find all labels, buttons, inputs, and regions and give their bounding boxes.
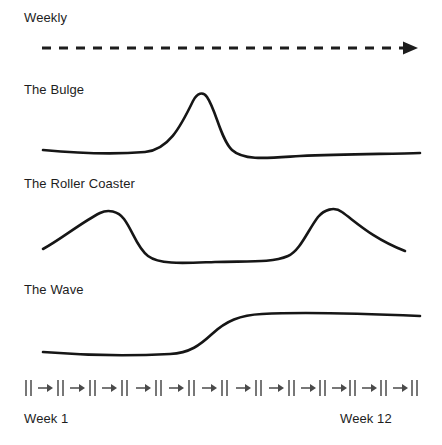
- tick-marker-pair: [381, 380, 386, 396]
- tick-arrow-icon: [332, 384, 347, 392]
- tick-marker-pair: [90, 380, 95, 396]
- tick-arrow-icon: [236, 384, 251, 392]
- tick-arrow-icon: [169, 384, 184, 392]
- tick-arrow-icon: [393, 384, 408, 392]
- tick-arrow-icon: [70, 384, 85, 392]
- section-label-wave: The Wave: [24, 282, 84, 297]
- tick-marker-pair: [222, 380, 227, 396]
- axis-start-label: Week 1: [24, 411, 68, 426]
- tick-marker-pair: [350, 380, 355, 396]
- tick-marker-pair: [189, 380, 194, 396]
- tick-arrow-icon: [136, 384, 151, 392]
- tick-marker-pair: [320, 380, 325, 396]
- curve-roller-coaster: [43, 209, 405, 263]
- tick-arrow-icon: [269, 384, 284, 392]
- tick-marker-pair: [156, 380, 161, 396]
- axis-end-label: Week 12: [340, 411, 392, 426]
- tick-arrow-icon: [38, 384, 53, 392]
- tick-marker-pair: [58, 380, 63, 396]
- week-tick-row: [26, 380, 417, 396]
- tick-marker-pair: [26, 380, 31, 396]
- curve-wave: [43, 313, 420, 355]
- right-arrow-icon: [403, 42, 418, 55]
- tick-marker-pair: [256, 380, 261, 396]
- tick-marker-pair: [289, 380, 294, 396]
- curve-bulge: [43, 94, 420, 158]
- page-title: Weekly: [24, 10, 67, 25]
- tick-marker-pair: [122, 380, 127, 396]
- tick-marker-pair: [412, 380, 417, 396]
- timeline-dashed-arrow: [42, 42, 418, 55]
- section-label-bulge: The Bulge: [24, 82, 84, 97]
- tick-arrow-icon: [202, 384, 217, 392]
- tick-arrow-icon: [102, 384, 117, 392]
- tick-arrow-icon: [301, 384, 316, 392]
- diagram-canvas: [0, 0, 442, 445]
- weekly-effort-diagram: Weekly The Bulge The Roller Coaster The …: [0, 0, 442, 445]
- tick-arrow-icon: [362, 384, 377, 392]
- section-label-roller-coaster: The Roller Coaster: [24, 176, 135, 191]
